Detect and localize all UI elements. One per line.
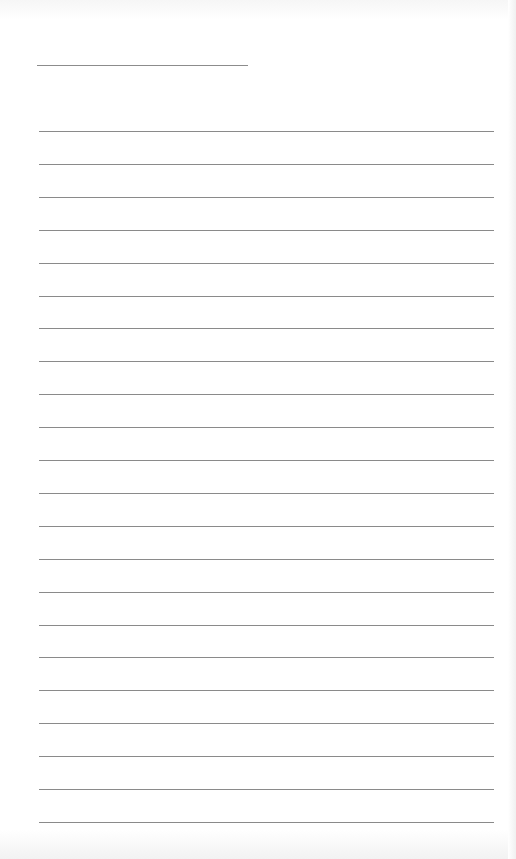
ruled-line xyxy=(39,328,494,329)
ruled-line xyxy=(39,723,494,724)
ruled-line xyxy=(39,460,494,461)
ruled-line xyxy=(39,690,494,691)
ruled-line xyxy=(39,657,494,658)
ruled-line xyxy=(39,526,494,527)
ruled-line xyxy=(39,427,494,428)
ruled-line xyxy=(39,789,494,790)
title-line xyxy=(37,65,248,66)
ruled-line xyxy=(39,756,494,757)
ruled-line xyxy=(39,559,494,560)
ruled-line xyxy=(39,131,494,132)
ruled-line xyxy=(39,361,494,362)
ruled-line xyxy=(39,164,494,165)
ruled-line xyxy=(39,592,494,593)
lined-paper-sheet xyxy=(0,0,516,859)
ruled-line xyxy=(39,493,494,494)
ruled-line xyxy=(39,263,494,264)
ruled-line xyxy=(39,230,494,231)
ruled-line xyxy=(39,822,494,823)
paper-edge-shadow xyxy=(508,0,516,859)
ruled-line xyxy=(39,394,494,395)
ruled-line xyxy=(39,625,494,626)
ruled-line xyxy=(39,197,494,198)
ruled-line xyxy=(39,296,494,297)
